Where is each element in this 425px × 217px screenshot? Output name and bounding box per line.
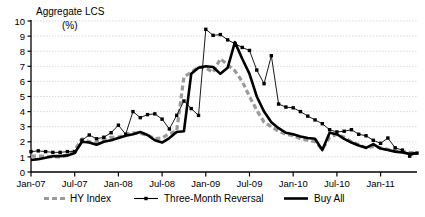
- y-tick-label: 0: [20, 167, 25, 178]
- legend-label: Three-Month Reversal: [164, 193, 263, 204]
- chart-canvas: 012345678910 Jan-07Jul-07Jan-08Jul-08Jan…: [0, 0, 425, 217]
- data-point-marker: [357, 133, 360, 136]
- aggregate-lcs-chart: 012345678910 Jan-07Jul-07Jan-08Jul-08Jan…: [0, 0, 425, 217]
- y-tick-label: 4: [20, 106, 25, 117]
- data-point-marker: [277, 102, 280, 105]
- data-point-marker: [241, 46, 244, 49]
- data-point-marker: [299, 110, 302, 113]
- data-point-marker: [95, 137, 98, 140]
- x-tick-label: Jul-08: [149, 178, 175, 189]
- data-point-marker: [51, 151, 54, 154]
- data-point-marker: [379, 142, 382, 145]
- x-tick-label: Jul-10: [324, 178, 350, 189]
- x-tick-label: Jan-09: [191, 178, 220, 189]
- data-point-marker: [270, 54, 273, 57]
- data-point-marker: [248, 49, 251, 52]
- y-tick-label: 5: [20, 91, 25, 102]
- data-point-marker: [372, 139, 375, 142]
- x-tick-label: Jan-10: [279, 178, 308, 189]
- y-tick-label: 9: [20, 31, 25, 42]
- y-tick-label: 8: [20, 46, 25, 57]
- x-axis-tick-labels: Jan-07Jul-07Jan-08Jul-08Jan-09Jul-09Jan-…: [16, 178, 394, 189]
- chart-title: Aggregate LCS: [36, 6, 105, 17]
- x-tick-label: Jul-09: [237, 178, 263, 189]
- data-point-marker: [44, 150, 47, 153]
- data-point-marker: [364, 134, 367, 137]
- y-tick-label: 2: [20, 136, 25, 147]
- data-point-marker: [175, 114, 178, 117]
- legend-label: Buy All: [314, 193, 345, 204]
- data-point-marker: [182, 99, 185, 102]
- y-tick-label: 10: [14, 16, 25, 27]
- legend-marker: [144, 197, 147, 200]
- data-point-marker: [255, 68, 258, 71]
- data-point-marker: [350, 128, 353, 131]
- y-tick-label: 1: [20, 152, 25, 163]
- data-point-marker: [37, 149, 40, 152]
- data-point-marker: [284, 105, 287, 108]
- data-point-marker: [211, 34, 214, 37]
- data-point-marker: [219, 33, 222, 36]
- data-point-marker: [306, 114, 309, 117]
- y-tick-label: 6: [20, 76, 25, 87]
- data-point-marker: [393, 146, 396, 149]
- data-point-marker: [109, 131, 112, 134]
- data-point-marker: [102, 136, 105, 139]
- data-point-marker: [29, 150, 32, 153]
- data-point-marker: [168, 127, 171, 130]
- data-point-marker: [313, 118, 316, 121]
- data-point-marker: [160, 117, 163, 120]
- data-point-marker: [88, 133, 91, 136]
- data-point-marker: [58, 151, 61, 154]
- data-point-marker: [226, 38, 229, 41]
- data-point-marker: [146, 113, 149, 116]
- y-tick-label: 7: [20, 61, 25, 72]
- x-tick-label: Jan-07: [16, 178, 45, 189]
- data-point-marker: [190, 107, 193, 110]
- data-point-marker: [321, 122, 324, 125]
- chart-subtitle: (%): [62, 20, 78, 31]
- data-point-marker: [386, 136, 389, 139]
- data-point-marker: [342, 130, 345, 133]
- data-point-marker: [131, 110, 134, 113]
- data-point-marker: [139, 116, 142, 119]
- y-tick-label: 3: [20, 121, 25, 132]
- data-point-marker: [204, 28, 207, 31]
- data-point-marker: [153, 112, 156, 115]
- data-point-marker: [328, 128, 331, 131]
- data-point-marker: [197, 114, 200, 117]
- x-tick-label: Jan-11: [366, 178, 394, 189]
- x-tick-label: Jan-08: [104, 178, 133, 189]
- data-point-marker: [66, 150, 69, 153]
- data-point-marker: [117, 123, 120, 126]
- legend-label: HY Index: [70, 193, 111, 204]
- data-point-marker: [291, 106, 294, 109]
- x-tick-label: Jul-07: [62, 178, 88, 189]
- data-point-marker: [262, 82, 265, 85]
